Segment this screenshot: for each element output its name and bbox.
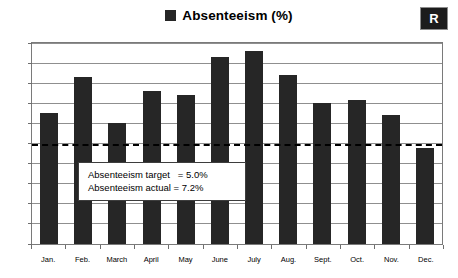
x-axis-label: Oct. (340, 256, 374, 264)
bar-july (245, 51, 263, 244)
x-axis-tick (340, 245, 341, 249)
annotation-actual-line: Absenteeism actual = 7.2% (88, 181, 236, 194)
bar-aug (279, 75, 297, 244)
bar-june (211, 57, 229, 244)
status-badge: R (420, 7, 448, 30)
x-axis-label: Feb. (65, 256, 99, 264)
x-axis-tick (374, 245, 375, 249)
x-axis-tick (443, 245, 444, 249)
bar-dec (416, 148, 434, 244)
x-axis-tick (409, 245, 410, 249)
absenteeism-bar-chart: Absenteeism (%) R 10%9%8%7%6%5%4%3%2%1%0… (0, 0, 458, 278)
annotation-box: Absenteeism target = 5.0% Absenteeism ac… (78, 162, 246, 201)
chart-legend: Absenteeism (%) (0, 9, 458, 23)
x-axis-tick (203, 245, 204, 249)
x-axis-tick (306, 245, 307, 249)
legend-swatch-icon (165, 10, 176, 21)
x-axis-label: Aug. (271, 256, 305, 264)
x-axis-label: May (168, 256, 202, 264)
bar-nov (382, 115, 400, 244)
x-axis-tick (271, 245, 272, 249)
x-axis-tick (134, 245, 135, 249)
x-axis-tick (100, 245, 101, 249)
x-axis-label: Nov. (374, 256, 408, 264)
x-axis-tick (65, 245, 66, 249)
x-axis-tick (237, 245, 238, 249)
x-axis-label: March (100, 256, 134, 264)
x-axis-tick (31, 245, 32, 249)
x-axis-label: June (203, 256, 237, 264)
x-axis-labels: Jan.Feb.MarchAprilMayJuneJulyAug.Sept.Oc… (31, 256, 443, 264)
x-axis-label: July (237, 256, 271, 264)
x-axis-label: Dec. (409, 256, 443, 264)
x-axis-ticks (31, 245, 443, 250)
bar-feb (74, 77, 92, 244)
x-axis-label: Sept. (306, 256, 340, 264)
status-badge-label: R (429, 12, 438, 25)
target-line (32, 144, 442, 146)
bar-oct (348, 100, 366, 244)
x-axis-label: April (134, 256, 168, 264)
plot-area: 10%9%8%7%6%5%4%3%2%1%0% (31, 42, 443, 245)
x-axis-label: Jan. (31, 256, 65, 264)
chart-title: Absenteeism (%) (182, 9, 292, 23)
annotation-target-line: Absenteeism target = 5.0% (88, 168, 236, 181)
bar-jan (40, 113, 58, 244)
x-axis-tick (168, 245, 169, 249)
bar-sept (313, 103, 331, 244)
